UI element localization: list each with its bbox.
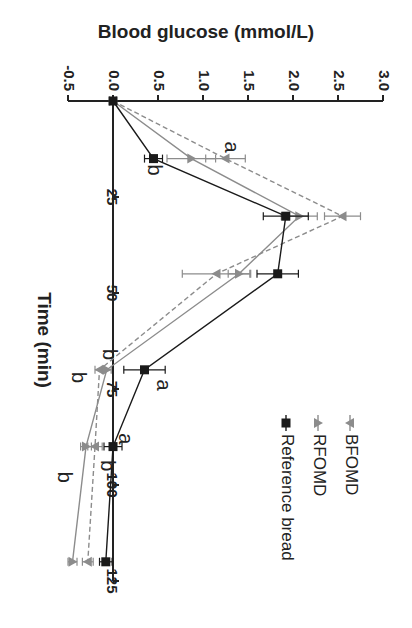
y-axis-title: Blood glucose (mmol/L): [98, 21, 314, 42]
significance-label: b: [68, 372, 90, 383]
significance-label: b: [54, 472, 76, 483]
legend-label: Reference bread: [278, 434, 297, 561]
triangle-up-marker-icon: [187, 154, 196, 164]
y-tick-label: 2.5: [331, 70, 348, 91]
x-tick-label: 25: [104, 189, 121, 206]
square-marker-icon: [140, 365, 149, 374]
triangle-down-marker-icon: [83, 557, 92, 567]
plot-area: Blood glucose (mmol/L)-0.50.00.51.01.52.…: [34, 21, 393, 594]
square-marker-icon: [109, 97, 118, 106]
square-marker-icon: [273, 269, 282, 278]
legend-label: RFOMD: [310, 434, 329, 496]
y-tick-label: 3.0: [376, 70, 393, 91]
significance-label: a: [115, 433, 137, 445]
significance-label: a: [153, 380, 175, 392]
significance-label: b: [99, 349, 121, 360]
triangle-down-marker-icon: [221, 154, 230, 164]
square-marker-icon: [149, 154, 158, 163]
legend-square-icon: [282, 419, 291, 428]
y-tick-label: 1.0: [196, 70, 213, 91]
significance-label: b: [97, 460, 119, 471]
series-line: [106, 101, 286, 562]
x-tick-label: 50: [104, 285, 121, 302]
y-tick-label: 0.5: [151, 70, 168, 91]
legend-label: BFOMD: [342, 434, 361, 495]
series-line: [88, 101, 343, 562]
y-tick-label: -0.5: [61, 65, 78, 91]
square-marker-icon: [281, 212, 290, 221]
significance-label: b: [144, 165, 166, 176]
y-tick-label: 2.0: [286, 70, 303, 91]
triangle-down-marker-icon: [338, 211, 347, 221]
x-tick-label: 125: [104, 568, 121, 593]
y-tick-label: 1.5: [241, 70, 258, 91]
x-tick-label: 100: [104, 472, 121, 497]
y-tick-label: 0.0: [106, 70, 123, 91]
significance-label: a: [221, 142, 243, 154]
blood-glucose-chart: Blood glucose (mmol/L)-0.50.00.51.01.52.…: [0, 0, 412, 628]
x-axis-title: Time (min): [34, 292, 55, 388]
square-marker-icon: [101, 557, 110, 566]
x-tick-label: 75: [104, 381, 121, 398]
